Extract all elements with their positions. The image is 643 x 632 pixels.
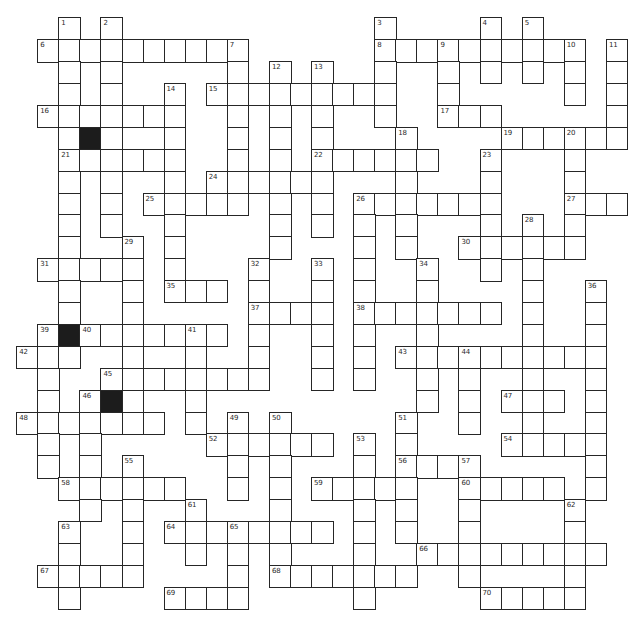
grid-cell[interactable]: [585, 412, 608, 435]
grid-cell[interactable]: 65: [227, 521, 250, 544]
grid-cell[interactable]: [206, 368, 229, 391]
grid-cell[interactable]: [122, 258, 145, 281]
grid-cell[interactable]: [122, 412, 145, 435]
grid-cell[interactable]: 54: [501, 433, 524, 456]
grid-cell[interactable]: 69: [164, 587, 187, 610]
grid-cell[interactable]: [185, 39, 208, 62]
grid-cell[interactable]: [206, 193, 229, 216]
grid-cell[interactable]: [437, 83, 460, 106]
grid-cell[interactable]: [122, 390, 145, 413]
grid-cell[interactable]: [395, 433, 418, 456]
grid-cell[interactable]: [437, 193, 460, 216]
grid-cell[interactable]: [79, 565, 102, 588]
grid-cell[interactable]: [395, 171, 418, 194]
grid-cell[interactable]: [248, 368, 271, 391]
grid-cell[interactable]: 42: [16, 346, 39, 369]
grid-cell[interactable]: [374, 83, 397, 106]
grid-cell[interactable]: [353, 455, 376, 478]
grid-cell[interactable]: 31: [37, 258, 60, 281]
grid-cell[interactable]: [58, 39, 81, 62]
grid-cell[interactable]: [353, 149, 376, 172]
grid-cell[interactable]: [164, 149, 187, 172]
grid-cell[interactable]: [501, 543, 524, 566]
grid-cell[interactable]: [290, 302, 313, 325]
grid-cell[interactable]: [58, 346, 81, 369]
grid-cell[interactable]: [458, 499, 481, 522]
grid-cell[interactable]: [564, 543, 587, 566]
grid-cell[interactable]: 22: [311, 149, 334, 172]
grid-cell[interactable]: [164, 193, 187, 216]
grid-cell[interactable]: [458, 521, 481, 544]
grid-cell[interactable]: [164, 368, 187, 391]
grid-cell[interactable]: [585, 477, 608, 500]
grid-cell[interactable]: [543, 477, 566, 500]
grid-cell[interactable]: [290, 171, 313, 194]
grid-cell[interactable]: [79, 455, 102, 478]
grid-cell[interactable]: 57: [458, 455, 481, 478]
grid-cell[interactable]: 10: [564, 39, 587, 62]
grid-cell[interactable]: [480, 543, 503, 566]
grid-cell[interactable]: [480, 171, 503, 194]
grid-cell[interactable]: [564, 61, 587, 84]
grid-cell[interactable]: [185, 193, 208, 216]
grid-cell[interactable]: 49: [227, 412, 250, 435]
grid-cell[interactable]: 26: [353, 193, 376, 216]
grid-cell[interactable]: [100, 412, 123, 435]
grid-cell[interactable]: 23: [480, 149, 503, 172]
grid-cell[interactable]: 29: [122, 236, 145, 259]
grid-cell[interactable]: [311, 171, 334, 194]
grid-cell[interactable]: [100, 477, 123, 500]
grid-cell[interactable]: 63: [58, 521, 81, 544]
grid-cell[interactable]: 21: [58, 149, 81, 172]
grid-cell[interactable]: [585, 193, 608, 216]
grid-cell[interactable]: [248, 346, 271, 369]
grid-cell[interactable]: [564, 587, 587, 610]
grid-cell[interactable]: [353, 280, 376, 303]
grid-cell[interactable]: [564, 171, 587, 194]
grid-cell[interactable]: 13: [311, 61, 334, 84]
grid-cell[interactable]: 19: [501, 127, 524, 150]
grid-cell[interactable]: [248, 171, 271, 194]
grid-cell[interactable]: [143, 39, 166, 62]
grid-cell[interactable]: [437, 346, 460, 369]
grid-cell[interactable]: 3: [374, 17, 397, 40]
grid-cell[interactable]: [206, 521, 229, 544]
grid-cell[interactable]: [353, 346, 376, 369]
grid-cell[interactable]: [543, 433, 566, 456]
grid-cell[interactable]: [585, 127, 608, 150]
grid-cell[interactable]: 43: [395, 346, 418, 369]
grid-cell[interactable]: 16: [37, 105, 60, 128]
grid-cell[interactable]: 33: [311, 258, 334, 281]
grid-cell[interactable]: [437, 61, 460, 84]
grid-cell[interactable]: [269, 193, 292, 216]
grid-cell[interactable]: [522, 280, 545, 303]
grid-cell[interactable]: [480, 258, 503, 281]
grid-cell[interactable]: [585, 302, 608, 325]
grid-cell[interactable]: [501, 477, 524, 500]
grid-cell[interactable]: [311, 105, 334, 128]
grid-cell[interactable]: [37, 390, 60, 413]
grid-cell[interactable]: 50: [269, 412, 292, 435]
grid-cell[interactable]: [501, 39, 524, 62]
grid-cell[interactable]: [501, 587, 524, 610]
grid-cell[interactable]: 55: [122, 455, 145, 478]
grid-cell[interactable]: [311, 127, 334, 150]
grid-cell[interactable]: [374, 149, 397, 172]
grid-cell[interactable]: 6: [37, 39, 60, 62]
grid-cell[interactable]: [564, 236, 587, 259]
grid-cell[interactable]: [100, 193, 123, 216]
grid-cell[interactable]: [480, 214, 503, 237]
grid-cell[interactable]: [522, 258, 545, 281]
grid-cell[interactable]: [480, 39, 503, 62]
grid-cell[interactable]: [143, 149, 166, 172]
grid-cell[interactable]: [374, 193, 397, 216]
grid-cell[interactable]: [79, 499, 102, 522]
grid-cell[interactable]: [458, 39, 481, 62]
grid-cell[interactable]: [353, 543, 376, 566]
grid-cell[interactable]: [332, 565, 355, 588]
grid-cell[interactable]: [227, 127, 250, 150]
grid-cell[interactable]: [206, 587, 229, 610]
grid-cell[interactable]: [543, 543, 566, 566]
grid-cell[interactable]: [227, 105, 250, 128]
grid-cell[interactable]: [269, 543, 292, 566]
